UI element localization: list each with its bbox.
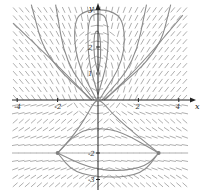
field-arrow [176, 119, 181, 123]
field-arrow [36, 136, 42, 138]
field-arrow [146, 104, 152, 106]
field-arrow [152, 127, 157, 130]
field-arrow [61, 136, 67, 138]
field-arrow [140, 183, 145, 187]
field-arrow [127, 160, 133, 161]
field-arrow [44, 87, 48, 92]
field-arrow [30, 136, 36, 138]
field-arrow [146, 119, 151, 123]
field-arrow [24, 113, 30, 115]
field-arrow [44, 31, 48, 36]
field-arrow [128, 183, 133, 187]
field-arrow [19, 63, 23, 68]
field-arrow [30, 160, 36, 161]
field-arrow [25, 87, 29, 92]
field-arrow [44, 79, 48, 84]
field-arrow [48, 160, 54, 161]
x-axis-label: x [195, 102, 200, 111]
field-arrow [171, 55, 175, 60]
field-arrow [67, 127, 72, 130]
field-arrow [133, 145, 139, 146]
field-arrow [36, 168, 42, 170]
field-arrow [103, 136, 109, 138]
field-arrow [31, 63, 35, 68]
field-arrow [116, 39, 120, 44]
field-arrow [152, 136, 158, 138]
field-arrow [62, 87, 65, 93]
field-arrow [67, 145, 73, 146]
field-arrow [80, 39, 84, 44]
field-arrow [153, 31, 157, 36]
field-arrow [31, 31, 35, 36]
field-arrow [67, 175, 72, 179]
field-arrow [73, 111, 78, 115]
field-arrow [133, 160, 139, 161]
field-arrow [19, 127, 24, 130]
field-arrow [19, 119, 24, 123]
field-arrow [62, 55, 65, 61]
field-arrow [129, 47, 132, 53]
field-arrow [110, 119, 115, 123]
field-arrow [182, 160, 188, 161]
field-arrow [91, 113, 97, 114]
equilibrium-point [96, 72, 100, 76]
field-arrow [50, 87, 53, 92]
field-arrow [141, 95, 144, 101]
field-arrow [79, 136, 85, 138]
field-arrow [122, 127, 127, 130]
field-arrow [183, 71, 187, 76]
field-arrow [62, 23, 65, 29]
field-arrow [103, 145, 109, 146]
field-arrow [13, 16, 17, 21]
field-arrow [117, 23, 119, 29]
field-arrow [38, 7, 42, 12]
field-arrow [171, 47, 175, 52]
field-arrow [164, 113, 170, 115]
field-arrow [159, 63, 163, 68]
field-arrow [13, 183, 18, 187]
field-arrow [31, 23, 35, 28]
field-arrow [123, 15, 125, 21]
field-arrow [91, 160, 97, 161]
field-arrow [81, 23, 83, 29]
field-arrow [164, 175, 169, 179]
field-arrow [18, 145, 24, 146]
field-arrow [91, 136, 97, 138]
field-arrow [49, 104, 55, 106]
equilibrium-point [96, 98, 100, 102]
field-arrow [44, 23, 48, 28]
field-arrow [147, 87, 150, 92]
field-arrow [110, 47, 114, 52]
field-arrow [13, 79, 17, 84]
field-arrow [134, 175, 139, 179]
field-arrow [170, 160, 176, 161]
field-arrow [13, 87, 17, 92]
field-arrow [140, 175, 145, 179]
field-arrow [147, 63, 150, 68]
y-tick-label: 2 [87, 44, 93, 52]
field-arrow [42, 112, 48, 114]
field-arrow [165, 7, 169, 12]
y-axis-arrowhead-icon [96, 3, 101, 10]
field-arrow [75, 7, 77, 13]
field-arrow [123, 94, 126, 100]
x-tick-label: -2 [55, 103, 62, 111]
field-arrow [12, 168, 18, 170]
field-arrow [25, 15, 29, 20]
field-arrow [147, 31, 150, 36]
field-arrow [135, 15, 138, 21]
field-arrow [74, 95, 77, 101]
field-arrow [19, 39, 23, 44]
field-arrow [177, 8, 181, 13]
field-arrow [110, 40, 115, 44]
field-arrow [81, 62, 83, 68]
field-arrow [159, 55, 163, 60]
field-arrow [146, 183, 151, 187]
field-arrow [79, 175, 84, 179]
field-arrow [67, 183, 72, 187]
field-arrow [50, 95, 53, 101]
field-arrow [170, 168, 176, 170]
field-arrow [135, 31, 138, 37]
field-arrow [79, 111, 84, 115]
field-arrow [43, 183, 48, 187]
